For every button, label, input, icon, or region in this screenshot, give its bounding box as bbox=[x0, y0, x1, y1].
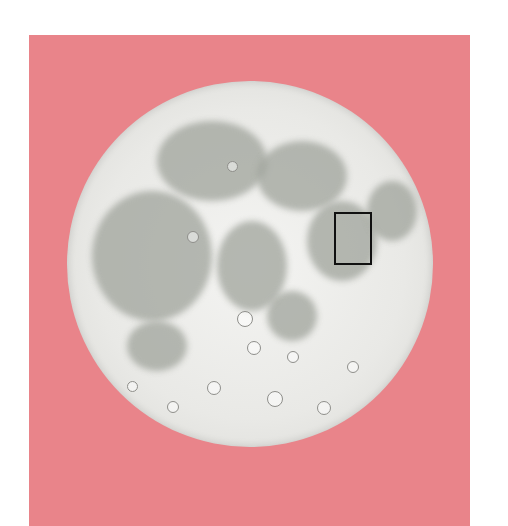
highlight-rectangle bbox=[334, 212, 372, 265]
moon-illustration bbox=[67, 81, 433, 447]
